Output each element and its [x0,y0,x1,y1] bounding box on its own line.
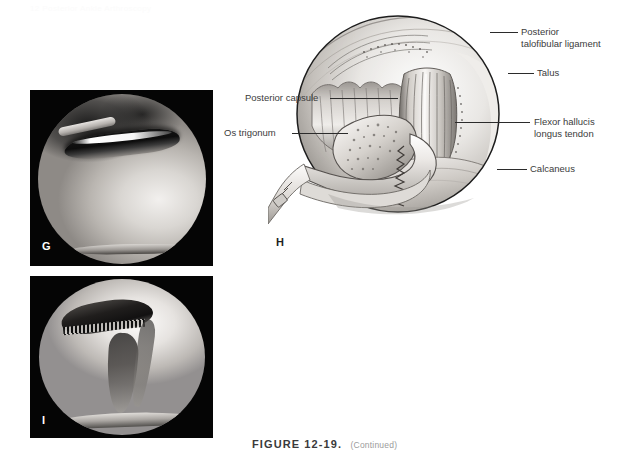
figure-number: FIGURE 12-19. [252,438,342,450]
running-head: 12 Posterior Ankle Arthroscopy [30,4,290,13]
label-posterior-talofibular-ligament: Posterior talofibular ligament [521,26,601,49]
leader-calcaneus [497,169,527,170]
label-ptfl-line2: talofibular ligament [521,38,601,50]
label-talus: Talus [537,67,559,79]
scope-circle-i [39,279,205,435]
leader-posterior-capsule [330,98,398,99]
leader-flexor-hallucis-longus-tendon [455,122,530,123]
label-os-trigonum: Os trigonum [224,127,276,139]
label-calcaneus: Calcaneus [530,163,575,175]
arthroscopic-photo-g: G [30,90,213,266]
panel-letter-h: H [276,236,284,248]
lower-tissue-edge-i [57,411,193,430]
label-ptfl-line1: Posterior [521,26,601,38]
leader-os-trigonum [292,133,348,134]
figure-caption: FIGURE 12-19. (Continued) [252,434,397,452]
figure-continued-note: (Continued) [351,440,398,450]
label-fhl-line1: Flexor hallucis [534,116,595,128]
label-flexor-hallucis-longus-tendon: Flexor hallucis longus tendon [534,116,595,139]
scope-shading-g [38,94,206,264]
arthroscopic-photo-i: I [30,276,213,438]
scope-circle-g [38,94,206,264]
leader-posterior-talofibular-ligament [490,32,518,33]
panel-letter-i: I [42,414,45,426]
panel-letter-g: G [42,240,51,252]
label-posterior-capsule: Posterior capsule [245,92,318,104]
leader-talus [508,73,534,74]
label-fhl-line2: longus tendon [534,128,595,140]
figure-page: 12 Posterior Ankle Arthroscopy G I [0,0,634,474]
